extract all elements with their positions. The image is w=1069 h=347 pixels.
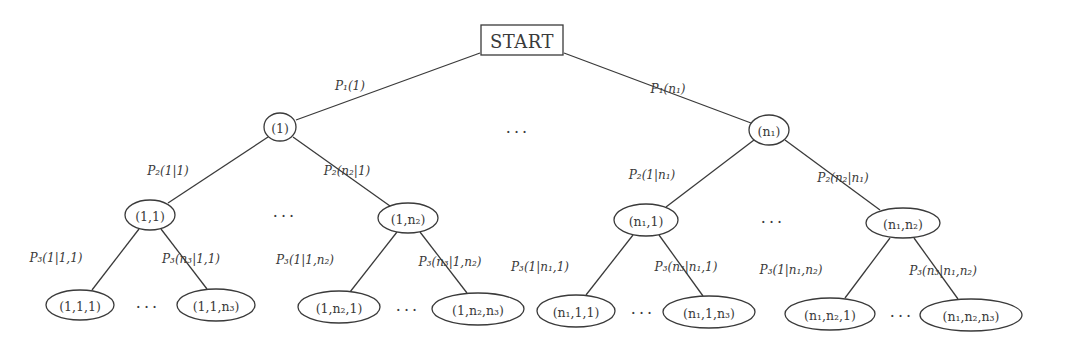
edge-probability-label: P₁(1)	[334, 79, 365, 93]
tree-edge: P₃(n₃|n₁,1)	[654, 235, 718, 296]
tree-edge: P₂(n₂|1)	[293, 137, 390, 206]
tree-edge: P₃(n₃|1,n₂)	[418, 232, 482, 293]
edge-line	[92, 229, 139, 290]
node-label: (1,1,n₃)	[193, 299, 240, 314]
tree-edge: P₂(1|1)	[146, 137, 268, 203]
tree-node: (1,1,n₃)	[177, 289, 255, 321]
edge-probability-label: P₃(n₃|1,1)	[161, 252, 220, 266]
ellipsis-marker: ···	[506, 123, 530, 142]
ellipsis-marker: ···	[396, 301, 420, 320]
tree-node: (1,n₂)	[378, 203, 438, 233]
node-label: (n₁,1,1)	[553, 305, 600, 320]
node-label: (n₁,n₂,n₃)	[943, 309, 1000, 324]
tree-edge: P₃(1|1,1)	[28, 229, 139, 290]
ellipsis-marker: ···	[761, 213, 785, 232]
edge-probability-label: P₂(n₂|n₁)	[816, 171, 869, 185]
tree-edge: P₃(n₃|1,1)	[161, 229, 220, 289]
node-label: (n₁,1)	[629, 214, 664, 229]
tree-edge: P₁(n₁)	[564, 53, 751, 123]
nodes: (1)(n₁)(1,1)(1,n₂)(n₁,1)(n₁,n₂)(1,1,1)(1…	[46, 113, 1022, 331]
edge-line	[586, 235, 633, 295]
edge-probability-label: P₃(1|n₁,1)	[510, 260, 569, 274]
node-label: (1)	[271, 121, 289, 136]
tree-node: (1,1,1)	[46, 290, 114, 320]
tree-node: (1,n₂,n₃)	[432, 293, 524, 325]
tree-edge: P₁(1)	[296, 53, 480, 120]
start-label: START	[490, 31, 554, 52]
tree-edge: P₃(n₃|n₁,n₂)	[908, 238, 977, 299]
tree-node: (1,1)	[125, 200, 175, 230]
tree-node: (n₁,n₂,n₃)	[920, 299, 1022, 331]
tree-node: (1)	[264, 113, 296, 141]
tree-edge: P₃(1|n₁,n₂)	[759, 238, 890, 298]
edge-line	[845, 238, 890, 298]
tree-node: (n₁,1)	[614, 204, 678, 236]
node-label: (1,1)	[135, 209, 165, 224]
node-label: (n₁)	[758, 124, 781, 139]
ellipsis-markers: ·····················	[136, 123, 914, 326]
tree-node: (n₁,1,n₃)	[663, 296, 755, 328]
node-label: (n₁,n₂,1)	[804, 308, 856, 323]
edge-probability-label: P₃(1|1,n₂)	[275, 253, 334, 267]
edge-line	[296, 53, 480, 120]
ellipsis-marker: ···	[631, 304, 655, 323]
tree-edge: P₃(1|n₁,1)	[510, 235, 633, 295]
tree-node: (n₁,1,1)	[537, 295, 615, 327]
edge-probability-label: P₃(n₃|n₁,1)	[654, 260, 718, 274]
edge-probability-label: P₂(n₂|1)	[323, 164, 371, 178]
edge-probability-label: P₃(n₃|n₁,n₂)	[908, 264, 977, 278]
edge-probability-label: P₃(1|n₁,n₂)	[759, 263, 823, 277]
tree-node: (n₁,n₂,1)	[785, 298, 875, 330]
ellipsis-marker: ···	[273, 207, 297, 226]
node-label: (1,n₂,n₃)	[452, 303, 504, 318]
root-node: START	[481, 25, 563, 55]
node-label: (n₁,n₂)	[883, 217, 923, 232]
node-label: (1,n₂)	[391, 212, 426, 227]
ellipsis-marker: ···	[890, 307, 914, 326]
edge-line	[350, 232, 397, 292]
tree-edge: P₂(1|n₁)	[628, 140, 754, 207]
edge-probability-label: P₂(1|n₁)	[628, 168, 676, 182]
edge-probability-label: P₃(1|1,1)	[28, 251, 82, 265]
tree-edge: P₃(1|1,n₂)	[275, 232, 397, 292]
probability-tree-diagram: P₁(1)P₁(n₁)P₂(1|1)P₂(n₂|1)P₂(1|n₁)P₂(n₂|…	[0, 0, 1069, 347]
node-label: (1,n₂,1)	[316, 301, 363, 316]
tree-node: (n₁,n₂)	[866, 208, 940, 238]
node-label: (1,1,1)	[59, 299, 101, 314]
edge-probability-label: P₃(n₃|1,n₂)	[418, 255, 482, 269]
edge-probability-label: P₁(n₁)	[650, 82, 686, 96]
edge-line	[666, 140, 754, 207]
ellipsis-marker: ···	[136, 298, 160, 317]
tree-node: (1,n₂,1)	[298, 291, 380, 323]
node-label: (n₁,1,n₃)	[683, 306, 735, 321]
tree-edge: P₂(n₂|n₁)	[785, 140, 880, 210]
tree-node: (n₁)	[749, 115, 789, 145]
edges: P₁(1)P₁(n₁)P₂(1|1)P₂(n₂|1)P₂(1|n₁)P₂(n₂|…	[28, 53, 977, 299]
edge-probability-label: P₂(1|1)	[146, 164, 189, 178]
